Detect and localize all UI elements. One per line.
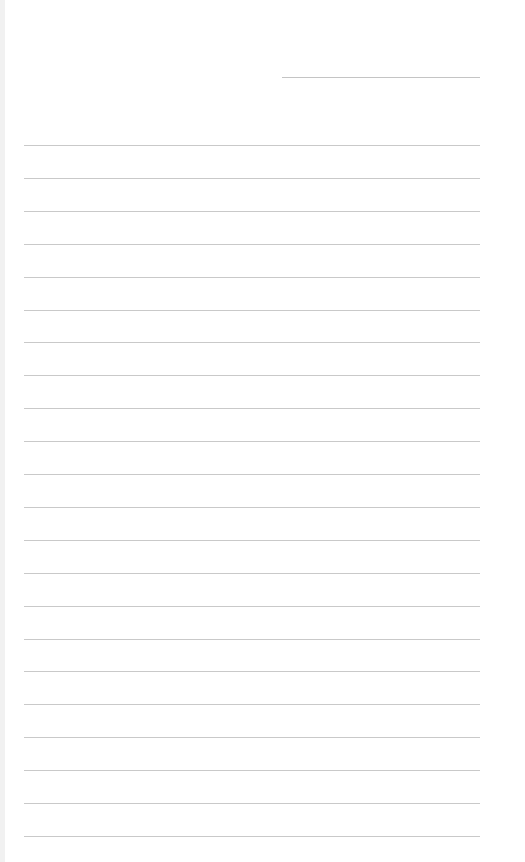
ruled-line — [24, 704, 480, 705]
ruled-line — [24, 244, 480, 245]
ruled-line — [24, 836, 480, 837]
page-left-edge-shadow — [0, 0, 5, 862]
ruled-line — [24, 507, 480, 508]
ruled-line — [24, 342, 480, 343]
ruled-line — [24, 606, 480, 607]
ruled-line — [24, 770, 480, 771]
ruled-line — [24, 639, 480, 640]
ruled-line — [24, 277, 480, 278]
ruled-line — [24, 671, 480, 672]
date-header-line — [282, 77, 480, 78]
ruled-line — [24, 573, 480, 574]
ruled-line — [24, 737, 480, 738]
ruled-line — [24, 441, 480, 442]
ruled-line — [24, 145, 480, 146]
ruled-line — [24, 474, 480, 475]
ruled-line — [24, 178, 480, 179]
ruled-line — [24, 803, 480, 804]
ruled-line — [24, 408, 480, 409]
ruled-line — [24, 540, 480, 541]
ruled-line — [24, 375, 480, 376]
ruled-line — [24, 211, 480, 212]
ruled-line — [24, 310, 480, 311]
